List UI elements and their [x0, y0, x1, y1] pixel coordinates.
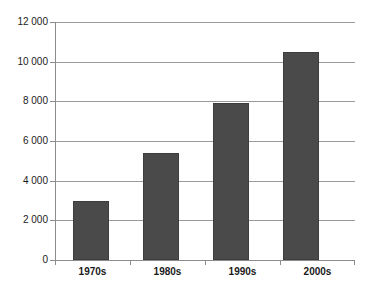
x-tick-mark-4 [354, 260, 355, 265]
y-axis-label-2000: 2 000 [2, 215, 48, 225]
y-axis-label-10000: 10 000 [2, 57, 48, 67]
x-tick-mark-3 [280, 260, 281, 265]
x-tick-mark-0 [55, 260, 56, 265]
y-axis-labels: 12 000 10 000 8 000 6 000 4 000 2 000 0 [0, 0, 48, 290]
x-axis-label-1970s: 1970s [55, 266, 130, 278]
x-axis-label-2000s: 2000s [280, 266, 355, 278]
bar-1980s[interactable] [143, 153, 179, 260]
y-axis-label-12000: 12 000 [2, 17, 48, 27]
y-axis-label-4000: 4 000 [2, 176, 48, 186]
y-axis-label-8000: 8 000 [2, 96, 48, 106]
bar-1990s[interactable] [213, 103, 249, 260]
y-axis-label-6000: 6 000 [2, 136, 48, 146]
bar-chart: 12 000 10 000 8 000 6 000 4 000 2 000 0 … [0, 0, 365, 290]
x-axis-label-1990s: 1990s [205, 266, 280, 278]
y-axis-label-0: 0 [2, 255, 48, 265]
x-axis-label-1980s: 1980s [130, 266, 205, 278]
x-tick-mark-2 [205, 260, 206, 265]
x-axis-labels: 1970s 1980s 1990s 2000s [55, 266, 355, 284]
bar-2000s[interactable] [283, 52, 319, 260]
bars-layer [55, 22, 355, 260]
x-tick-mark-1 [130, 260, 131, 265]
bar-1970s[interactable] [73, 201, 109, 261]
